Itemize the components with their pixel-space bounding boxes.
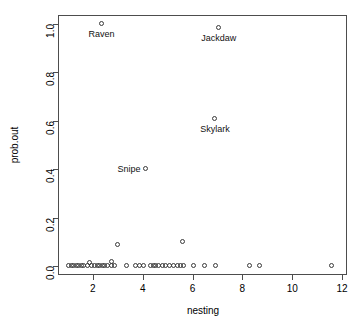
x-axis-tick <box>193 275 194 280</box>
data-point <box>112 263 117 268</box>
data-point <box>216 25 221 30</box>
scatter-plot-figure: RavenJackdawSkylarkSnipe nesting prob.ou… <box>0 0 362 332</box>
data-point <box>257 263 262 268</box>
y-axis-tick-label: 0.2 <box>45 218 56 232</box>
x-axis-tick-label: 4 <box>140 283 146 294</box>
x-axis-tick-label: 2 <box>90 283 96 294</box>
x-axis-tick <box>93 275 94 280</box>
data-point <box>124 263 129 268</box>
data-point <box>329 263 334 268</box>
x-axis-tick-label: 10 <box>287 283 298 294</box>
plot-data-area: RavenJackdawSkylarkSnipe <box>0 0 362 332</box>
x-axis-tick-label: 6 <box>190 283 196 294</box>
data-point <box>181 263 186 268</box>
point-annotation-skylark: Skylark <box>200 124 230 134</box>
data-point <box>212 116 217 121</box>
x-axis-label: nesting <box>187 305 219 316</box>
point-annotation-snipe: Snipe <box>117 164 140 174</box>
data-point <box>202 263 207 268</box>
y-axis-tick-label: 0.0 <box>45 266 56 280</box>
y-axis-tick-label: 0.8 <box>45 72 56 86</box>
point-annotation-raven: Raven <box>89 29 115 39</box>
x-axis-tick <box>143 275 144 280</box>
data-point <box>115 242 120 247</box>
x-axis-tick <box>292 275 293 280</box>
data-point <box>213 263 218 268</box>
y-axis-tick-label: 0.6 <box>45 121 56 135</box>
y-axis-tick-label: 0.4 <box>45 169 56 183</box>
x-axis-tick <box>242 275 243 280</box>
data-point <box>247 263 252 268</box>
data-point <box>180 239 185 244</box>
data-point <box>143 166 148 171</box>
y-axis-label: prob.out <box>9 127 20 164</box>
data-point <box>141 263 146 268</box>
data-point <box>99 21 104 26</box>
data-point <box>191 263 196 268</box>
point-annotation-jackdaw: Jackdaw <box>201 33 236 43</box>
x-axis-tick-label: 8 <box>240 283 246 294</box>
y-axis-tick-label: 1.0 <box>45 24 56 38</box>
x-axis-tick <box>342 275 343 280</box>
x-axis-tick-label: 12 <box>336 283 347 294</box>
